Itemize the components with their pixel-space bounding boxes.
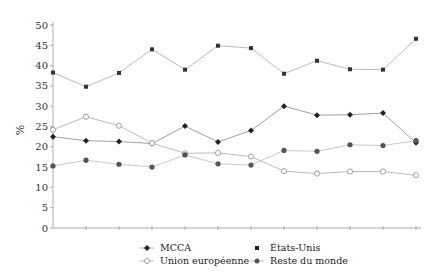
data-point-square [150,47,154,51]
data-point-open-circle [413,173,418,178]
data-point-diamond [83,138,89,144]
data-point-filled-circle [314,149,319,154]
series-line [53,39,416,87]
y-tick-label: 20 [35,141,48,152]
data-point-open-circle [281,169,286,174]
y-tick-label: 25 [35,121,48,132]
data-point-square [381,68,385,72]
data-point-square [51,71,55,75]
data-point-filled-circle [83,158,88,163]
data-point-square [348,67,352,71]
legend-label: Union européenne [160,255,249,266]
legend-item-union-europeenne: Union européenne [140,255,250,266]
data-point-open-circle [248,154,253,159]
data-point-diamond [182,123,188,129]
data-point-open-circle [50,127,55,132]
data-point-open-circle [83,114,88,119]
data-point-filled-circle [248,162,253,167]
data-point-open-circle [116,123,121,128]
data-point-open-circle [215,150,220,155]
data-point-square [183,68,187,72]
data-point-filled-circle [413,138,418,143]
legend-label: Reste du monde [270,255,348,266]
data-point-square [117,71,121,75]
legend-item-mcca: MCCA [140,242,250,253]
y-tick-label: 0 [42,223,48,234]
data-point-open-circle [149,141,154,146]
data-point-diamond [281,103,287,109]
data-point-open-circle [347,169,352,174]
legend-label: MCCA [160,242,191,253]
data-point-filled-circle [182,152,187,157]
data-point-diamond [116,139,122,145]
filled-circle-marker-icon [250,257,264,265]
diamond-marker-icon [140,244,154,252]
y-tick-label: 40 [35,60,48,71]
data-point-diamond [347,112,353,118]
open-circle-marker-icon [140,257,154,265]
data-point-filled-circle [281,148,286,153]
data-point-diamond [215,139,221,145]
series-line [53,117,416,175]
legend-label: États-Unis [270,242,320,253]
y-tick-label: 45 [35,40,48,51]
data-point-square [414,37,418,41]
data-point-filled-circle [347,142,352,147]
y-tick-label: 35 [35,80,48,91]
y-tick-label: 10 [35,182,48,193]
y-axis-label: % [14,125,27,135]
legend-item-etats-unis: États-Unis [250,242,360,253]
square-marker-icon [250,244,264,252]
data-point-square [282,72,286,76]
series-line [53,106,416,143]
data-point-diamond [248,128,254,134]
data-point-diamond [50,134,56,140]
data-point-open-circle [314,171,319,176]
line-chart: 05101520253035404550% [0,0,435,274]
data-point-filled-circle [149,165,154,170]
data-point-square [84,85,88,89]
data-point-square [315,59,319,63]
y-tick-label: 30 [35,101,48,112]
y-tick-label: 5 [42,202,48,213]
series-line [53,141,416,167]
data-point-diamond [314,112,320,118]
y-tick-label: 50 [35,20,48,31]
data-point-square [249,46,253,50]
data-point-open-circle [380,169,385,174]
data-point-filled-circle [380,143,385,148]
data-point-square [216,44,220,48]
legend-item-reste-du-monde: Reste du monde [250,255,360,266]
data-point-filled-circle [116,162,121,167]
legend: MCCA États-Unis Union européenne Reste d… [140,241,360,267]
data-point-filled-circle [50,163,55,168]
data-point-filled-circle [215,161,220,166]
y-tick-label: 15 [35,162,48,173]
